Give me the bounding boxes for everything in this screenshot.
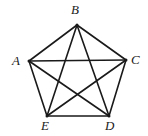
side-BC (77, 25, 126, 60)
diagonal-CE (47, 60, 126, 116)
diagonal-AC (29, 60, 126, 61)
vertex-dot-A (28, 60, 31, 63)
side-EA (29, 61, 47, 116)
pentagon-diagram: A B C D E (0, 0, 148, 136)
diagonal-BD (77, 25, 109, 116)
vertex-label-A: A (12, 54, 20, 67)
vertex-dot-C (125, 59, 128, 62)
vertex-dot-B (76, 24, 79, 27)
side-AB (29, 25, 77, 61)
vertex-label-E: E (41, 119, 49, 132)
pentagon-svg (0, 0, 148, 136)
side-CD (109, 60, 126, 116)
edge-group (29, 25, 126, 116)
diagonal-BE (47, 25, 77, 116)
vertex-label-C: C (131, 53, 140, 66)
vertex-label-B: B (71, 3, 79, 16)
diagonal-AD (29, 61, 109, 116)
vertex-label-D: D (105, 119, 114, 132)
